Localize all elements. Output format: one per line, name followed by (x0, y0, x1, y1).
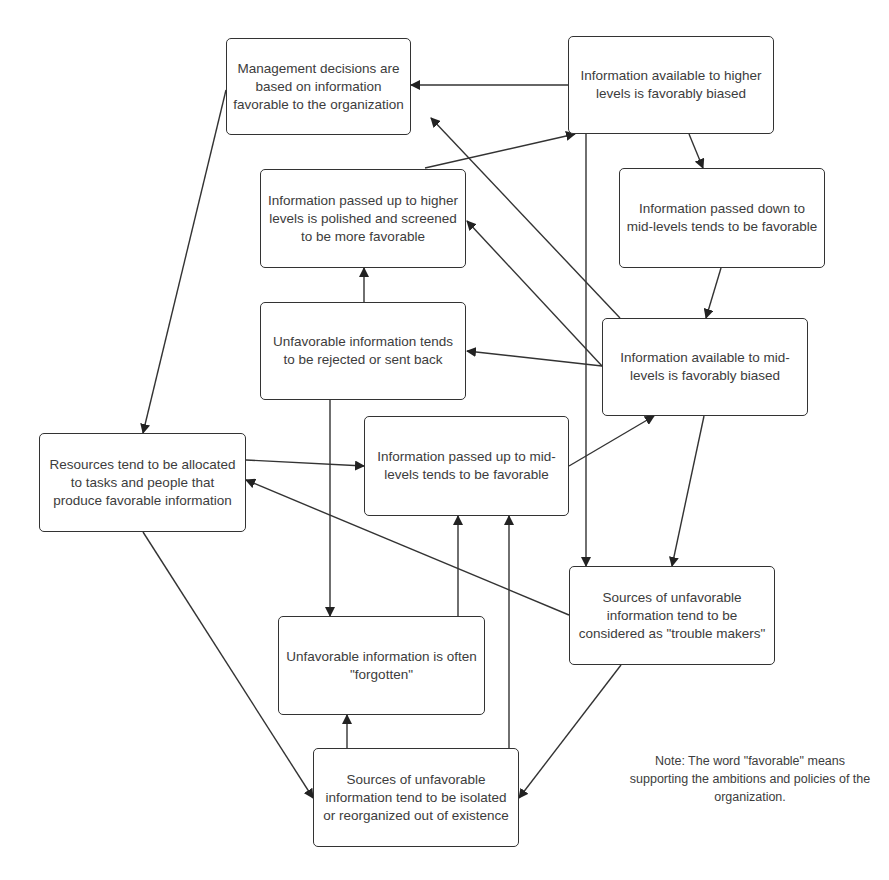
node-label: Unfavorable information is often "forgot… (285, 648, 478, 684)
node-isolated: Sources of unfavorable information tend … (313, 748, 519, 847)
node-label: Information passed up to higher levels i… (267, 192, 459, 246)
node-mid-passed-up: Information passed up to mid-levels tend… (364, 416, 569, 516)
arrow-mid-to-rejected (467, 351, 602, 366)
node-mid-biased: Information available to mid-levels is f… (602, 318, 808, 416)
node-polished: Information passed up to higher levels i… (260, 169, 466, 268)
node-label: Information passed up to mid-levels tend… (371, 448, 562, 484)
arrow-mid-to-trouble-makers (672, 416, 704, 566)
node-rejected: Unfavorable information tends to be reje… (260, 302, 466, 400)
node-passed-down: Information passed down to mid-levels te… (619, 168, 825, 268)
arrow-trouble-to-isolated (519, 665, 621, 798)
node-label: Resources tend to be allocated to tasks … (46, 456, 239, 510)
arrow-mid-to-polished (467, 221, 602, 366)
node-label: Sources of unfavorable information tend … (576, 589, 768, 643)
node-trouble-makers: Sources of unfavorable information tend … (569, 566, 775, 665)
arrow-mid-passed-up-to-mid (569, 416, 654, 466)
node-resources: Resources tend to be allocated to tasks … (39, 433, 246, 532)
node-label: Information available to higher levels i… (575, 67, 767, 103)
node-label: Information available to mid-levels is f… (609, 349, 801, 385)
arrow-passed-down-to-mid (706, 268, 721, 318)
arrow-higher-to-passed-down (689, 134, 703, 168)
node-label: Management decisions are based on inform… (233, 60, 404, 114)
node-label: Information passed down to mid-levels te… (626, 200, 818, 236)
node-forgotten: Unfavorable information is often "forgot… (278, 616, 485, 715)
arrow-management-to-resources (143, 90, 226, 433)
node-management: Management decisions are based on inform… (226, 38, 411, 135)
node-label: Unfavorable information tends to be reje… (267, 333, 459, 369)
footnote: Note: The word "favorable" means support… (625, 752, 875, 806)
node-label: Sources of unfavorable information tend … (320, 771, 512, 825)
node-higher-biased: Information available to higher levels i… (568, 36, 774, 134)
arrow-resources-to-mid-passed-up (246, 460, 364, 466)
arrow-polished-to-higher (425, 134, 575, 168)
